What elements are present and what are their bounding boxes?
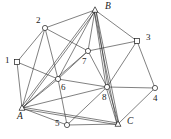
edge-3-8 xyxy=(107,41,137,87)
edge-2-7 xyxy=(45,28,88,51)
node-marker-4[interactable] xyxy=(152,85,157,90)
edge-3-4 xyxy=(137,41,155,88)
node-marker-2[interactable] xyxy=(42,25,47,30)
edge-3-7 xyxy=(88,41,137,51)
edge-b-c xyxy=(94,10,117,124)
node-label-a: A xyxy=(17,112,23,122)
edge-1-6 xyxy=(17,62,58,79)
node-label-4: 4 xyxy=(153,94,158,103)
edge-5-8 xyxy=(67,87,107,125)
edge-1-2 xyxy=(17,28,45,62)
node-marker-8[interactable] xyxy=(104,84,109,89)
node-label-6: 6 xyxy=(61,83,66,92)
edge-8-b xyxy=(94,10,106,87)
graph-diagram: 12345678ABC xyxy=(0,0,171,139)
graph-canvas xyxy=(0,0,171,139)
node-label-2: 2 xyxy=(36,16,41,25)
node-marker-b[interactable] xyxy=(92,7,98,13)
node-label-3: 3 xyxy=(146,33,151,42)
node-marker-6[interactable] xyxy=(55,76,60,81)
node-label-5: 5 xyxy=(55,119,60,128)
node-label-b: B xyxy=(105,2,111,12)
edge-5-c xyxy=(67,124,118,125)
edge-7-8 xyxy=(88,51,107,87)
node-marker-5[interactable] xyxy=(64,122,69,127)
node-label-8: 8 xyxy=(102,93,107,102)
node-marker-7[interactable] xyxy=(85,48,90,53)
edge-2-6 xyxy=(45,28,58,79)
edge-6-b xyxy=(58,10,95,79)
node-label-7: 7 xyxy=(82,57,87,66)
edge-7-a xyxy=(22,51,88,108)
node-label-c: C xyxy=(127,117,133,127)
edge-4-c xyxy=(118,88,155,124)
edge-a-c xyxy=(22,107,118,123)
node-marker-3[interactable] xyxy=(135,39,140,44)
edge-2-a xyxy=(22,28,45,108)
edge-1-a xyxy=(17,62,22,108)
edge-4-8 xyxy=(107,87,155,88)
edge-b-c xyxy=(96,10,119,124)
node-label-1: 1 xyxy=(5,56,10,65)
node-marker-1[interactable] xyxy=(15,60,20,65)
edges-layer xyxy=(17,9,155,125)
